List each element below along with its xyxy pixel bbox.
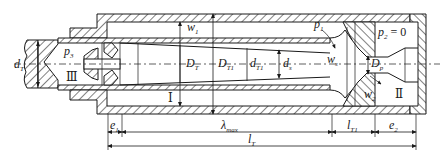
label-zone3: Ⅲ — [66, 70, 78, 84]
label-ws: ws — [327, 52, 338, 68]
label-p3: p3 — [63, 44, 74, 60]
jet-pump-diagram: dT p3 Ⅲ w1 DT DT1 dT1 ds Ⅰ p1 ws p2 = 0 … — [0, 0, 447, 162]
label-ds: ds — [283, 56, 292, 72]
label-dT: dT — [14, 57, 25, 73]
label-zone2: Ⅱ — [395, 87, 403, 101]
label-p2: p2 = 0 — [377, 25, 406, 41]
dim-lambda-max: λmax — [220, 118, 239, 134]
external-dimensions: e1 λmax lT1 e2 lT — [108, 114, 416, 150]
label-DT: DT — [185, 56, 200, 72]
label-dT1: dT1 — [250, 56, 263, 72]
dim-e1: e1 — [110, 118, 119, 134]
dim-lT1: lT1 — [347, 118, 358, 134]
dim-e2: e2 — [389, 118, 398, 134]
label-DT1: DT1 — [217, 56, 234, 72]
label-Dp: Dp — [370, 56, 384, 72]
dim-lT: lT — [248, 132, 256, 148]
label-zone1: Ⅰ — [168, 91, 173, 105]
